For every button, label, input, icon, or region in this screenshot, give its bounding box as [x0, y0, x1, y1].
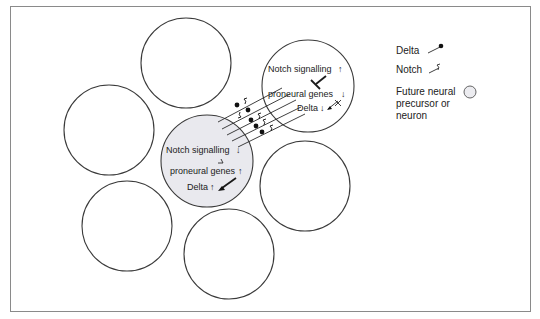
- receiving-notch-arrow: ↑: [338, 64, 343, 74]
- cell-bottom: [184, 209, 274, 299]
- sending-delta-label: Delta: [187, 182, 208, 192]
- legend-delta-label: Delta: [396, 45, 420, 56]
- legend-future-neural-line2: precursor or: [396, 98, 451, 109]
- cell-left: [64, 85, 154, 175]
- receiving-notch-label: Notch signalling: [268, 64, 332, 74]
- sending-notch-arrow: ↓: [236, 145, 241, 155]
- sending-delta-arrow: ↑: [210, 182, 215, 192]
- receiving-proneural-arrow: ↓: [341, 89, 346, 99]
- legend-notch-label: Notch: [396, 64, 422, 75]
- cell-signal-receiving: [262, 40, 354, 132]
- legend: Delta Notch Future neural precursor or n…: [396, 44, 476, 121]
- sending-proneural-label: proneural genes: [170, 166, 236, 176]
- legend-future-neural-line1: Future neural: [396, 86, 455, 97]
- receiving-delta-arrow: ↓: [320, 103, 325, 113]
- sending-proneural-arrow: ↑: [238, 166, 243, 176]
- cell-bottom-left: [82, 181, 172, 271]
- receiving-delta-label: Delta: [297, 103, 318, 113]
- diagram-canvas: Notch signalling ↑ proneural genes ↓ Del…: [0, 0, 540, 319]
- delta-legend-icon: [428, 47, 440, 53]
- cell-right-middle: [260, 141, 350, 231]
- sending-notch-label: Notch signalling: [166, 145, 230, 155]
- future-neural-legend-icon: [464, 86, 476, 98]
- cell-top: [141, 18, 231, 108]
- legend-future-neural-line3: neuron: [396, 110, 427, 121]
- notch-legend-icon: [429, 64, 440, 73]
- receiving-proneural-label: proneural genes: [268, 89, 334, 99]
